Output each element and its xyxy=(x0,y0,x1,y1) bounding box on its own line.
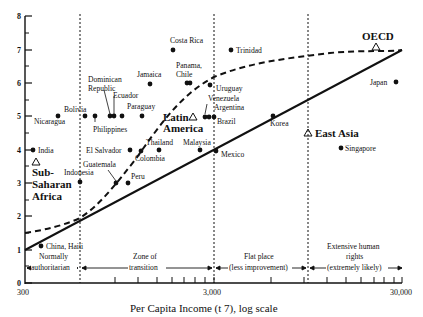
triangle-oecd xyxy=(372,43,380,50)
label-india: India xyxy=(38,146,54,155)
region-ssa-1: Sub- xyxy=(32,166,54,178)
label-bolivia: Bolivia xyxy=(64,105,87,114)
point-mexico xyxy=(214,149,219,154)
triangle-latin-america xyxy=(189,113,197,120)
y-tick-6: 6 xyxy=(17,79,21,88)
point-ecuador-b xyxy=(120,114,125,119)
label-thailand: Thailand xyxy=(146,138,173,147)
y-tick-1: 1 xyxy=(17,246,21,255)
label-jamaica: Jamaica xyxy=(137,70,162,79)
point-ecuador xyxy=(112,114,117,119)
point-japan xyxy=(394,80,399,85)
point-india xyxy=(31,148,36,153)
y-tick-7: 7 xyxy=(17,46,21,55)
x-tick-30000: 30,000 xyxy=(390,288,412,297)
label-indonesia: Indonesia xyxy=(64,168,94,177)
y-tick-5: 5 xyxy=(17,112,21,121)
label-republic: Republic xyxy=(88,84,116,93)
point-guatemala xyxy=(114,181,119,186)
region-east-asia: East Asia xyxy=(315,127,359,139)
label-chile: Chile xyxy=(176,70,193,79)
y-tick-3: 3 xyxy=(17,179,21,188)
y-tick-0: 0 xyxy=(17,279,21,288)
point-argentina xyxy=(207,115,212,120)
point-costa-rica xyxy=(171,48,176,53)
zone-transition: transition xyxy=(129,263,158,272)
label-malaysia: Malaysia xyxy=(183,138,211,147)
triangle-sub-saharan-africa xyxy=(32,158,40,165)
point-paraguay xyxy=(140,114,145,119)
point-peru xyxy=(126,181,131,186)
y-tick-2: 2 xyxy=(17,212,21,221)
point-brazil xyxy=(212,115,217,120)
zone-extensive: Extensive human xyxy=(327,242,380,251)
zone-less-improvement: (less improvement) xyxy=(229,263,288,272)
point-china-haiti xyxy=(39,244,44,249)
label-uruguay: Uruguay xyxy=(216,84,243,93)
region-latam-2: America xyxy=(163,122,204,134)
x-tick-300: 300 xyxy=(17,288,29,297)
x-tick-3000: 3,000 xyxy=(203,288,221,297)
point-labels: China, Haiti India Nicaragua Bolivia Phi… xyxy=(34,36,387,251)
label-venezuela: Venezuela xyxy=(208,94,240,103)
label-guatemala: Guatemala xyxy=(83,160,117,169)
zone-extremely-likely: (extremely likely) xyxy=(327,263,382,272)
region-oecd: OECD xyxy=(362,30,394,42)
zone-flat-place: Flat place xyxy=(244,252,274,261)
point-trinidad xyxy=(229,48,234,53)
zone-authoritarian: authoritarian xyxy=(31,263,70,272)
point-bolivia xyxy=(83,114,88,119)
label-japan: Japan xyxy=(370,78,387,87)
region-ssa-2: Saharan xyxy=(32,178,72,190)
point-korea xyxy=(271,114,276,119)
chart: 0 1 2 3 4 5 6 7 8 30 xyxy=(0,0,423,317)
point-indonesia xyxy=(78,180,83,185)
point-colombia xyxy=(139,149,144,154)
label-argentina: Argentina xyxy=(214,103,245,112)
point-singapore xyxy=(339,146,344,151)
y-tick-8: 8 xyxy=(17,12,21,21)
nonlinear-fit-curve xyxy=(25,50,402,233)
label-singapore: Singapore xyxy=(345,144,376,153)
label-philippines: Philippines xyxy=(93,125,127,134)
label-panama: Panama, xyxy=(176,61,202,70)
y-tick-4: 4 xyxy=(17,146,21,155)
label-korea: Korea xyxy=(270,119,289,128)
point-panama-chile-b xyxy=(188,81,193,86)
zone-normally: Normally xyxy=(39,252,68,261)
label-mexico: Mexico xyxy=(221,150,244,159)
label-paraguay: Paraguay xyxy=(127,102,155,111)
point-thailand xyxy=(157,148,162,153)
label-peru: Peru xyxy=(131,172,145,181)
label-el-salvador: El Salvador xyxy=(86,146,122,155)
label-ecuador: Ecuador xyxy=(113,91,139,100)
point-jamaica xyxy=(148,82,153,87)
zone-rights: rights xyxy=(346,252,363,261)
point-uruguay xyxy=(208,83,213,88)
region-ssa-3: Africa xyxy=(32,190,62,202)
label-brazil: Brazil xyxy=(217,117,236,126)
label-trinidad: Trinidad xyxy=(236,46,262,55)
label-dominican: Dominican xyxy=(88,75,122,84)
point-malaysia xyxy=(198,148,203,153)
label-colombia: Colombia xyxy=(135,154,166,163)
point-el-salvador xyxy=(128,148,133,153)
x-axis-label: Per Capita Income (t 7), log scale xyxy=(130,302,278,315)
label-costa-rica: Costa Rica xyxy=(170,36,204,45)
zone-zone-of: Zone of xyxy=(133,252,157,261)
label-nicaragua: Nicaragua xyxy=(34,117,66,126)
label-china-haiti: China, Haiti xyxy=(46,242,83,251)
